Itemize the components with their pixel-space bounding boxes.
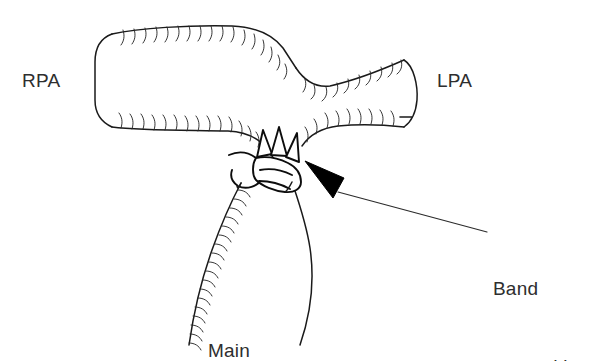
label-band-line1: Band — [493, 276, 578, 302]
label-band-sutured-in: Band sutured in — [493, 224, 578, 361]
label-band-line2: sutured in — [493, 354, 578, 361]
band-annotation-pointer — [305, 161, 487, 232]
leader-line — [338, 192, 487, 232]
vessel-body-fill — [95, 29, 414, 348]
pa-band-figure: RPA LPA Main PA Band sutured in — [0, 0, 609, 361]
label-main-pa-line1: Main — [208, 338, 250, 361]
label-lpa: LPA — [437, 69, 472, 92]
label-rpa: RPA — [22, 69, 60, 92]
label-main-pa: Main PA — [208, 288, 250, 361]
